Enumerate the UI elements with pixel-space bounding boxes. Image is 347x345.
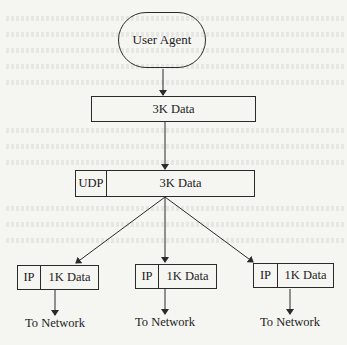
to-network-label: To Network [120, 315, 210, 330]
ip-header-cell: IP [18, 266, 41, 289]
ip-packet-box: IP 1K Data [253, 263, 334, 288]
app-data-label: 3K Data [92, 97, 255, 121]
udp-header-cell: UDP [76, 171, 107, 196]
user-agent-label: User Agent [133, 32, 192, 48]
ip-payload-cell: 1K Data [41, 266, 98, 289]
app-data-box: 3K Data [91, 96, 256, 122]
udp-datagram-box: UDP 3K Data [75, 170, 255, 197]
ip-header-cell: IP [136, 265, 159, 288]
ip-packet-box: IP 1K Data [135, 264, 217, 289]
ip-payload-cell: 1K Data [159, 265, 216, 288]
udp-payload-cell: 3K Data [107, 171, 254, 196]
to-network-label: To Network [245, 315, 335, 330]
to-network-label: To Network [10, 316, 100, 331]
user-agent-node: User Agent [118, 12, 206, 68]
ip-header-cell: IP [254, 264, 278, 287]
ip-packet-box: IP 1K Data [17, 265, 99, 290]
ip-payload-cell: 1K Data [278, 264, 333, 287]
